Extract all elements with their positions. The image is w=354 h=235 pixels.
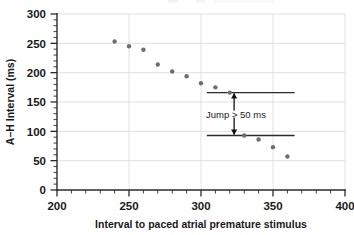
data-point <box>228 90 232 94</box>
data-point <box>213 85 217 89</box>
scatter-plot-svg: 300 250 200 150 100 50 0 200 250 300 350… <box>0 0 354 235</box>
y-tick-label-200: 200 <box>27 67 46 79</box>
x-tick-label-300: 300 <box>191 200 210 212</box>
y-axis-title: A–H Interval (ms) <box>4 59 16 145</box>
x-axis-title: Interval to paced atrial premature stimu… <box>95 218 307 230</box>
chart-figure: 300 250 200 150 100 50 0 200 250 300 350… <box>0 0 354 235</box>
y-tick-label-100: 100 <box>27 126 46 138</box>
data-point <box>127 44 131 48</box>
data-point <box>285 154 289 158</box>
y-tick-label-150: 150 <box>27 96 46 108</box>
data-point <box>184 74 188 78</box>
data-point <box>170 69 174 73</box>
y-tick-label-250: 250 <box>27 38 46 50</box>
y-tick-label-300: 300 <box>27 8 46 20</box>
x-tick-label-350: 350 <box>263 200 282 212</box>
y-tick-label-0: 0 <box>40 184 46 196</box>
y-tick-label-50: 50 <box>33 155 46 167</box>
data-point <box>256 137 260 141</box>
data-point <box>271 145 275 149</box>
x-tick-label-200: 200 <box>47 200 66 212</box>
jump-annotation-label: Jump > 50 ms <box>206 109 266 120</box>
data-point <box>141 48 145 52</box>
data-point <box>112 39 116 43</box>
data-point <box>156 62 160 66</box>
data-point <box>242 133 246 137</box>
x-tick-label-250: 250 <box>119 200 138 212</box>
x-tick-label-400: 400 <box>335 200 354 212</box>
data-point <box>199 81 203 85</box>
